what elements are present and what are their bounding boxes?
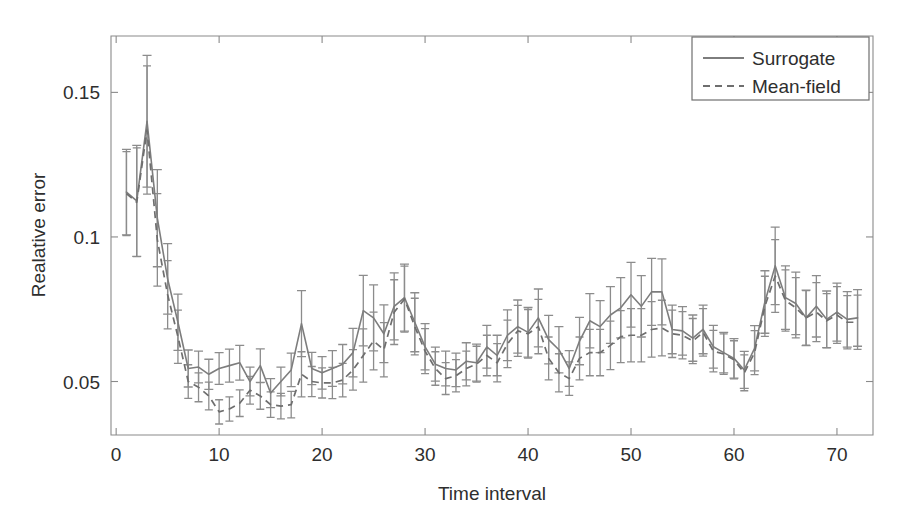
x-axis-tick-labels: 010203040506070 xyxy=(111,444,848,465)
error-bar xyxy=(761,276,769,336)
y-axis-ticks xyxy=(111,92,873,381)
series-line-surrogate xyxy=(126,121,857,393)
error-bar xyxy=(781,270,789,331)
x-tick-label: 0 xyxy=(111,444,122,465)
error-bar xyxy=(205,382,213,410)
x-tick-label: 30 xyxy=(414,444,435,465)
y-tick-label: 0.1 xyxy=(74,227,100,248)
error-bar xyxy=(431,352,439,386)
legend-label-surrogate: Surrogate xyxy=(752,48,835,69)
x-tick-label: 70 xyxy=(826,444,847,465)
x-axis-title: Time interval xyxy=(438,483,546,504)
error-bar xyxy=(658,300,666,356)
error-bar xyxy=(740,355,748,391)
y-tick-label: 0.15 xyxy=(63,82,100,103)
error-bar xyxy=(709,330,717,372)
x-tick-label: 50 xyxy=(620,444,641,465)
x-tick-label: 20 xyxy=(312,444,333,465)
relative-error-chart: 010203040506070 0.050.10.15 Time interva… xyxy=(0,0,905,517)
x-tick-label: 10 xyxy=(209,444,230,465)
series-line-mean-field xyxy=(126,130,857,412)
error-bar xyxy=(298,352,306,397)
figure-canvas: 010203040506070 0.050.10.15 Time interva… xyxy=(0,0,905,517)
y-tick-label: 0.05 xyxy=(63,372,100,393)
error-bar xyxy=(812,283,820,342)
error-bar xyxy=(411,298,419,355)
legend[interactable]: Surrogate Mean-field xyxy=(692,37,869,100)
error-bar xyxy=(689,318,697,363)
x-tick-label: 40 xyxy=(517,444,538,465)
legend-label-mean-field: Mean-field xyxy=(752,76,841,97)
x-tick-label: 60 xyxy=(723,444,744,465)
y-axis-title: Realative error xyxy=(28,172,49,297)
y-axis-tick-labels: 0.050.10.15 xyxy=(63,82,100,392)
error-bar xyxy=(854,295,862,349)
error-bar xyxy=(473,346,481,382)
